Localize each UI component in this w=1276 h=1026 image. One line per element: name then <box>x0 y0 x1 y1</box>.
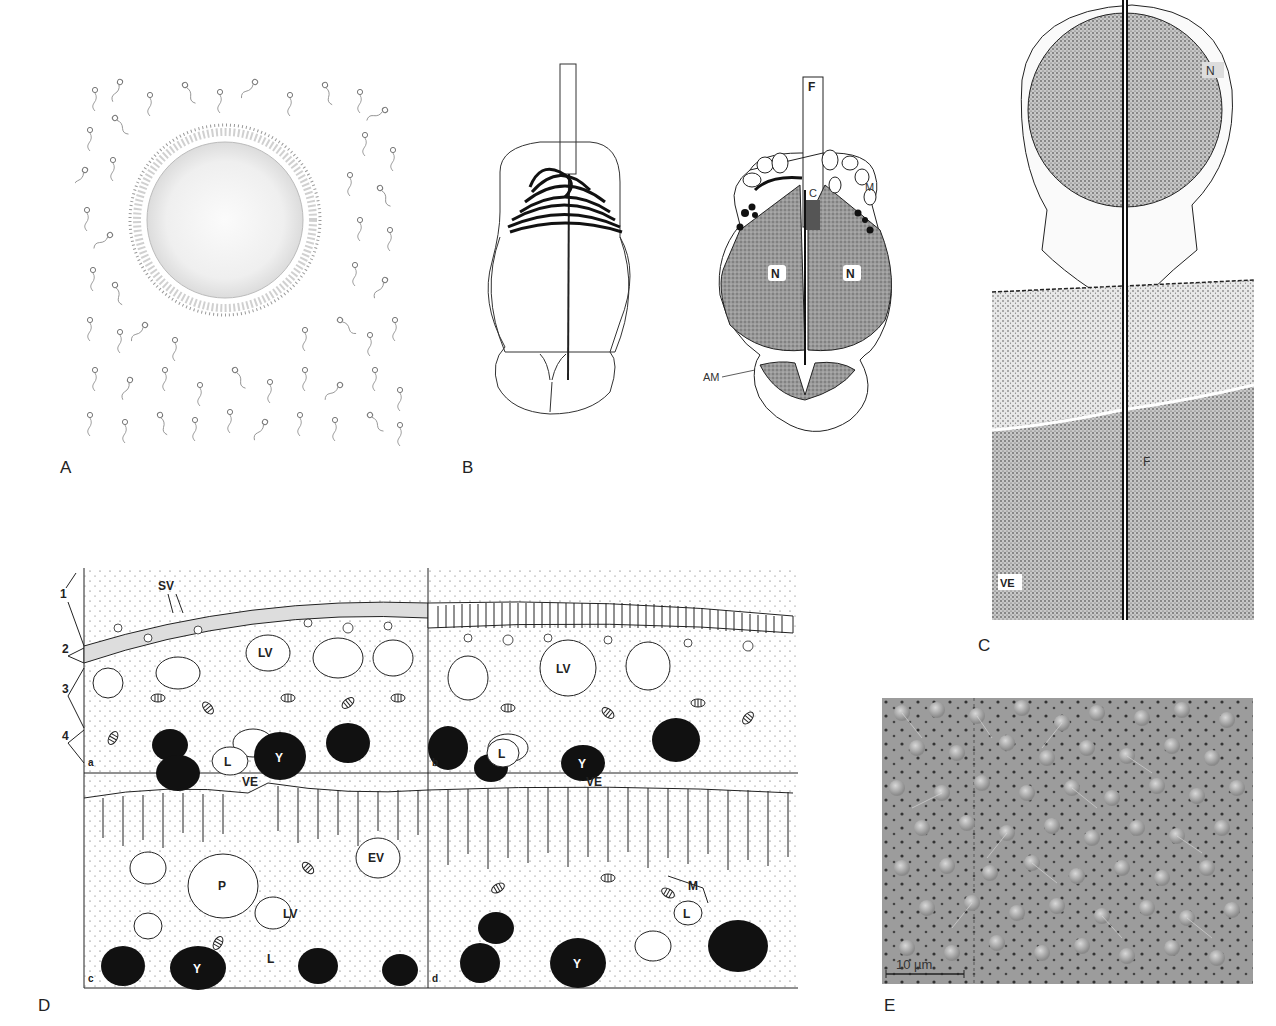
nucleus <box>721 185 805 351</box>
layer-1: 1 <box>60 587 67 601</box>
egg <box>147 142 303 298</box>
label-y-b: Y <box>578 757 586 771</box>
label-n: N <box>1206 64 1215 78</box>
panel-letter-c: C <box>978 636 990 656</box>
label-lv-b: LV <box>556 662 570 676</box>
panel-b-sperm-outline <box>470 62 650 437</box>
label-lv-c: LV <box>283 907 297 921</box>
label-l-c: L <box>267 952 274 966</box>
label-p: P <box>218 879 226 893</box>
panel-letter-a: A <box>60 458 71 478</box>
label-lv-a: LV <box>258 646 272 660</box>
label-am: AM <box>703 371 720 383</box>
label-ev: EV <box>368 851 384 865</box>
centriole <box>805 200 820 230</box>
label-l-a: L <box>224 755 231 769</box>
panel-a-egg-with-sperm <box>75 70 415 450</box>
label-f: F <box>1143 455 1150 469</box>
panel-letter-d: D <box>38 996 50 1016</box>
subpanel-c: c <box>88 973 94 984</box>
panel-d-cortex-drawings: SV LV LV LV L L L L Y Y Y Y P EV M VE VE… <box>48 568 798 990</box>
label-n-right: N <box>846 267 855 281</box>
label-l-d: L <box>683 907 690 921</box>
subpanel-a: a <box>88 757 94 768</box>
layer-3: 3 <box>62 682 69 696</box>
label-f: F <box>808 80 815 94</box>
label-l-b: L <box>498 747 505 761</box>
label-y-a: Y <box>275 751 283 765</box>
label-sv: SV <box>158 579 174 593</box>
panel-c-sperm-penetration: N F VE <box>992 0 1254 620</box>
scale-bar-label: 10 µm <box>896 957 932 972</box>
label-y-c: Y <box>193 962 201 976</box>
panel-e-sem-micrograph: 10 µm <box>882 698 1253 984</box>
label-n-left: N <box>771 267 780 281</box>
panel-b-sperm-section: N N F C M AM <box>700 65 910 455</box>
layer-4: 4 <box>62 729 69 743</box>
label-ve-c: VE <box>242 775 258 789</box>
label-y-d: Y <box>573 957 581 971</box>
layer-2: 2 <box>62 642 69 656</box>
panel-letter-b: B <box>462 458 473 478</box>
label-ve-d: VE <box>586 775 602 789</box>
label-ve: VE <box>1000 577 1015 589</box>
subpanel-b: b <box>432 757 438 768</box>
label-c: C <box>809 187 817 199</box>
panel-letter-e: E <box>884 996 895 1016</box>
label-m: M <box>865 181 874 193</box>
subpanel-d: d <box>432 973 438 984</box>
